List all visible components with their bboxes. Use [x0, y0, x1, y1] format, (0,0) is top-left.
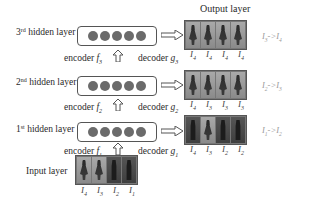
decoder-g2-label: decoder g2 — [138, 102, 178, 114]
neuron — [88, 127, 98, 137]
arrow-up-icon — [113, 50, 123, 62]
output-frame-strip-1 — [184, 20, 247, 50]
input-frame — [107, 157, 121, 183]
decoder-g1-label: decoder g1 — [138, 146, 178, 158]
output-frame — [216, 117, 230, 143]
input-frame-strip — [75, 155, 138, 185]
input-frame — [77, 157, 91, 183]
hidden-layer-2-label: 2nd hidden layer — [16, 77, 76, 87]
neuron — [136, 127, 146, 137]
arrow-up-icon — [113, 99, 123, 111]
neuron — [124, 81, 134, 91]
hidden-layer-1-box — [77, 122, 157, 142]
neuron — [112, 127, 122, 137]
neuron — [112, 81, 122, 91]
input-frame — [92, 157, 106, 183]
output-frame-strip-2 — [184, 70, 247, 100]
neuron — [88, 81, 98, 91]
relation-1-2: I1->I2 — [262, 125, 282, 137]
output-frame-labels-2: I4 I3 I3 I3 — [185, 99, 249, 111]
encoder-f3-label: encoder f3 — [64, 53, 102, 65]
hidden-layer-3-box — [77, 26, 157, 46]
neuron — [100, 81, 110, 91]
neuron — [136, 81, 146, 91]
hidden-layer-2-box — [77, 76, 157, 96]
output-frame — [186, 72, 200, 98]
output-frame-labels-1: I4 I4 I4 I4 — [185, 49, 249, 61]
output-frame — [201, 22, 215, 48]
output-frame — [201, 72, 215, 98]
output-frame — [186, 22, 200, 48]
neuron — [136, 31, 146, 41]
input-frame-labels: I4 I3 I2 I1 — [76, 185, 140, 197]
output-frame — [231, 22, 245, 48]
neuron — [124, 31, 134, 41]
neuron — [88, 31, 98, 41]
output-layer-title: Output layer — [200, 3, 250, 14]
output-frame — [186, 117, 200, 143]
decoder-g3-label: decoder g3 — [138, 53, 178, 65]
output-frame — [231, 72, 245, 98]
encoder-f2-label: encoder f2 — [64, 102, 102, 114]
input-frame — [122, 157, 136, 183]
neuron — [100, 127, 110, 137]
output-frame — [216, 22, 230, 48]
output-frame-labels-3: I4 I3 I2 I2 — [185, 144, 249, 156]
output-frame — [201, 117, 215, 143]
output-frame — [231, 117, 245, 143]
arrow-right-icon — [161, 80, 183, 90]
neuron — [124, 127, 134, 137]
arrow-right-icon — [161, 126, 183, 136]
arrow-up-icon — [113, 143, 123, 155]
relation-3-4: I3->I4 — [262, 31, 282, 43]
output-frame-strip-3 — [184, 115, 247, 145]
hidden-layer-3-label: 3rd hidden layer — [16, 27, 75, 37]
neuron — [100, 31, 110, 41]
arrow-right-icon — [161, 30, 183, 40]
relation-2-3: I2->I3 — [262, 80, 282, 92]
input-layer-label: Input layer — [26, 166, 67, 176]
neuron — [112, 31, 122, 41]
hidden-layer-1-label: 1st hidden layer — [16, 124, 74, 134]
output-frame — [216, 72, 230, 98]
